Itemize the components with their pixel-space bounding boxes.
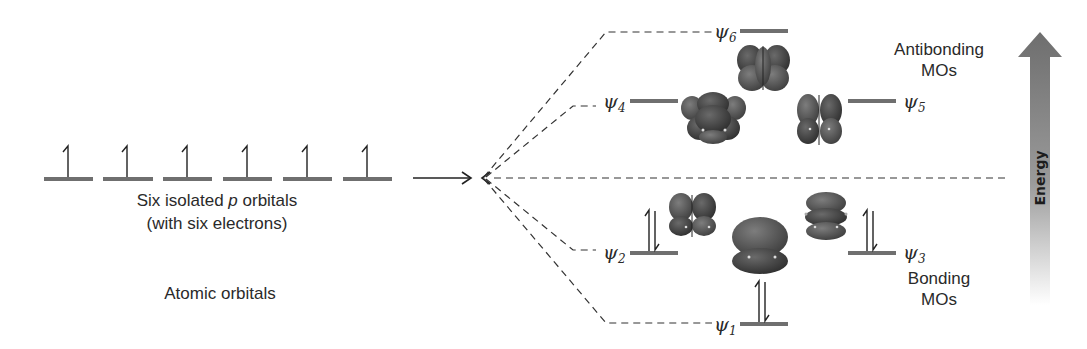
spin-up-arrow-icon bbox=[63, 146, 68, 177]
mo-level-psi2: ψ2 bbox=[603, 210, 678, 266]
combination-arrow-icon bbox=[413, 172, 471, 184]
atomic-orbitals-label: Atomic orbitals bbox=[164, 284, 275, 303]
spin-down-arrow-icon bbox=[765, 282, 769, 321]
spin-up-arrow-icon bbox=[863, 210, 867, 251]
atomic-caption-line1: Six isolated p orbitals bbox=[137, 191, 298, 210]
psi2-orbital-lobes-icon bbox=[669, 193, 716, 237]
psi5-label: ψ5 bbox=[903, 90, 926, 115]
atomic-orbital-5 bbox=[283, 146, 332, 181]
antibonding-label-line2: MOs bbox=[921, 61, 957, 80]
mo-level-psi4: ψ4 bbox=[603, 90, 678, 115]
spin-down-arrow-icon bbox=[655, 211, 659, 250]
spin-up-arrow-icon bbox=[645, 210, 649, 251]
spin-up-arrow-icon bbox=[182, 146, 187, 177]
atomic-orbital-1 bbox=[44, 146, 93, 181]
atomic-orbital-4 bbox=[223, 146, 272, 181]
mo-level-psi5: ψ5 bbox=[848, 90, 926, 115]
psi3-label: ψ3 bbox=[903, 241, 926, 266]
psi1-orbital-lobes-icon bbox=[732, 217, 788, 274]
mo-diagram: Six isolated p orbitals (with six electr… bbox=[0, 0, 1087, 349]
spin-up-arrow-icon bbox=[362, 146, 367, 177]
spin-up-arrow-icon bbox=[302, 146, 307, 177]
spin-up-arrow-icon bbox=[755, 281, 759, 322]
mo-level-psi3: ψ3 bbox=[848, 210, 926, 266]
atomic-orbital-6 bbox=[343, 146, 392, 181]
psi1-label: ψ1 bbox=[714, 313, 737, 338]
bonding-label-line2: MOs bbox=[921, 290, 957, 309]
atomic-orbital-2 bbox=[103, 146, 153, 181]
psi4-label: ψ4 bbox=[603, 90, 626, 115]
psi3-orbital-lobes-icon bbox=[805, 192, 848, 240]
psi6-orbital-lobes-icon bbox=[737, 45, 790, 91]
psi2-label: ψ2 bbox=[603, 241, 626, 266]
psi4-orbital-lobes-icon bbox=[681, 92, 746, 144]
spin-up-arrow-icon bbox=[242, 146, 247, 177]
spin-down-arrow-icon bbox=[873, 211, 877, 250]
psi6-label: ψ6 bbox=[714, 20, 737, 45]
psi5-orbital-lobes-icon bbox=[797, 94, 842, 145]
atomic-caption-line2: (with six electrons) bbox=[147, 214, 288, 233]
atomic-orbital-levels bbox=[44, 146, 392, 181]
antibonding-label-line1: Antibonding bbox=[894, 40, 984, 59]
energy-axis-label: Energy bbox=[1032, 150, 1048, 205]
atomic-orbital-3 bbox=[163, 146, 212, 181]
mo-level-psi1: ψ1 bbox=[714, 281, 788, 338]
spin-up-arrow-icon bbox=[122, 146, 127, 177]
bonding-label-line1: Bonding bbox=[908, 269, 970, 288]
mo-level-psi6: ψ6 bbox=[714, 20, 788, 45]
